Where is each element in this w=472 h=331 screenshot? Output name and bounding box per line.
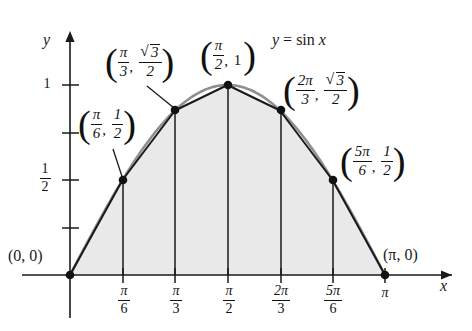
- leader-line-pi-over-6: [113, 149, 123, 178]
- x-tick-1-den: 3: [170, 301, 181, 317]
- curve-eq-equals: =: [283, 31, 292, 48]
- callout-pi6-y-num: 1: [112, 107, 124, 125]
- x-tick-1-num: π: [170, 284, 181, 301]
- curve-equation-label: y = sin x: [272, 31, 326, 49]
- y-tick-label-one-half: 1 2: [34, 163, 56, 195]
- x-tick-2-num: π: [223, 284, 234, 301]
- callout-pi2-x-den: 2: [213, 56, 225, 73]
- x-tick-4-den: 6: [324, 301, 342, 317]
- point-pi-over-3: [171, 106, 180, 115]
- origin-point-label: (0, 0): [8, 247, 43, 265]
- x-tick-label-two-pi-over-3: 2π 3: [266, 285, 296, 317]
- callout-5pi6-y-den: 2: [381, 162, 393, 179]
- point-pi: [381, 271, 390, 280]
- paren-open-2pi3: (: [283, 80, 296, 101]
- y-tick-half-numerator: 1: [40, 162, 51, 179]
- paren-open-pi3: (: [105, 52, 118, 73]
- callout-pi6-comma: ,: [102, 123, 108, 138]
- x-tick-label-five-pi-over-6: 5π 6: [318, 285, 348, 317]
- x-tick-label-pi-over-6: π 6: [111, 285, 137, 317]
- callout-2pi3-y-den: 2: [324, 91, 347, 108]
- callout-2pi3-comma: ,: [315, 88, 321, 103]
- point-five-pi-over-6: [329, 176, 338, 185]
- y-tick-label-1: 1: [38, 76, 56, 92]
- callout-pi-over-2: (π2, 1): [200, 39, 256, 74]
- x-tick-2-den: 2: [223, 301, 234, 317]
- callout-pi2-comma: ,: [224, 54, 230, 69]
- paren-open-pi6: (: [78, 114, 91, 135]
- leader-line-pi-over-3: [147, 86, 174, 108]
- x-tick-0-num: π: [118, 284, 129, 301]
- callout-5pi6-x-num: 5π: [353, 144, 372, 162]
- callout-pi3-x-num: π: [118, 45, 130, 63]
- y-axis-label: y: [43, 31, 50, 49]
- callout-pi3-y-radicand: 3: [150, 44, 160, 61]
- paren-open-5pi6: (: [340, 151, 353, 172]
- callout-2pi3-x-den: 3: [296, 91, 315, 108]
- callout-two-pi-over-3: (2π3, 32): [283, 73, 360, 109]
- endpoint-point-label: (π, 0): [383, 246, 418, 264]
- x-tick-3-den: 3: [272, 301, 290, 317]
- callout-5pi6-comma: ,: [372, 160, 378, 175]
- y-axis-arrow: [65, 31, 74, 42]
- x-tick-0-den: 6: [118, 301, 129, 317]
- point-origin: [66, 271, 75, 280]
- x-tick-label-pi-over-3: π 3: [163, 285, 189, 317]
- callout-2pi3-y-radicand: 3: [336, 72, 346, 89]
- paren-close-pi3: ): [162, 52, 175, 73]
- callout-pi2-y: 1: [234, 53, 244, 68]
- paren-close-pi2: ): [243, 45, 256, 66]
- x-tick-label-pi-over-2: π 2: [216, 285, 242, 317]
- callout-2pi3-x-num: 2π: [296, 73, 315, 91]
- callout-5pi6-y-num: 1: [381, 144, 393, 162]
- sine-trapezoid-figure: y x 1 1 2 π 6 π 3 π 2 2π 3 5π: [0, 0, 472, 331]
- point-pi-over-2: [224, 81, 233, 90]
- callout-pi3-y-den: 2: [139, 63, 162, 80]
- x-axis-label: x: [440, 277, 447, 295]
- callout-5pi6-x-den: 6: [353, 162, 372, 179]
- curve-eq-arg: x: [319, 31, 326, 48]
- x-tick-label-pi: π: [374, 285, 396, 301]
- y-tick-half-denominator: 2: [40, 179, 51, 195]
- callout-pi-over-3: (π3, 32): [105, 45, 174, 81]
- paren-close-5pi6: ): [393, 151, 406, 172]
- point-pi-over-6: [119, 176, 128, 185]
- callout-pi3-comma: ,: [129, 60, 135, 75]
- callout-pi2-x-num: π: [213, 38, 225, 56]
- x-tick-4-num: 5π: [324, 284, 342, 301]
- callout-pi6-y-den: 2: [112, 125, 124, 142]
- callout-pi3-x-den: 3: [118, 63, 130, 80]
- x-tick-3-num: 2π: [272, 284, 290, 301]
- callout-pi-over-6: (π6, 12): [78, 108, 136, 143]
- callout-pi6-x-num: π: [91, 107, 103, 125]
- curve-eq-fn: sin: [296, 31, 315, 48]
- paren-close-pi6: ): [123, 114, 136, 135]
- sqrt-icon-pi3: 3: [141, 44, 160, 61]
- sqrt-icon-2pi3: 3: [326, 72, 345, 89]
- callout-five-pi-over-6: (5π6, 12): [340, 145, 406, 180]
- paren-close-2pi3: ): [347, 80, 360, 101]
- paren-open-pi2: (: [200, 45, 213, 66]
- callout-pi6-x-den: 6: [91, 125, 103, 142]
